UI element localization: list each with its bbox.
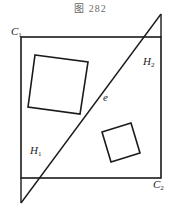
small-square [102,123,140,162]
label-c1: C1 [11,25,22,39]
large-square [28,55,88,114]
label-h1: H1 [29,144,42,158]
label-h2: H2 [142,55,155,69]
figure-282: 图 282 C1 H2 e H1 C2 [0,0,181,210]
label-e: e [103,91,108,103]
diagram-canvas: C1 H2 e H1 C2 [0,0,181,210]
figure-caption: 图 282 [0,0,181,15]
label-c2: C2 [153,178,164,192]
